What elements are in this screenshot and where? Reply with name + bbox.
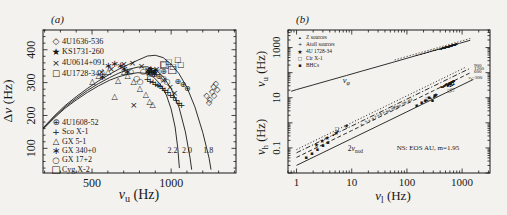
curve-label-1.8: 1.8 [203, 146, 213, 155]
x-tick-100: 100 [399, 176, 416, 188]
point-cir-x-1: □ [335, 126, 339, 131]
legend-marker-4u1636-536: ◇ [53, 36, 60, 46]
point-atoll-sources: + [372, 117, 376, 122]
point-4u-1728-34: ★ [344, 122, 349, 129]
point-upper-branch-sparse: ▪ [424, 52, 426, 55]
b-legend-b: ▴Z sources+Atoll sources★4U 1728-34□Cir … [297, 34, 334, 68]
point-cir-x-1: □ [450, 87, 454, 92]
x-tick-1000: 1000 [451, 176, 474, 188]
spin-label-300: νs=300 [468, 75, 482, 81]
legend-marker-4u0614-091: × [52, 57, 60, 68]
legend-marker-atoll-sources: + [298, 41, 302, 47]
legend-label-sco-x-1: Sco X-1 [62, 127, 88, 136]
x-tick-500: 500 [83, 176, 101, 190]
point-upper-branch-sparse: ▪ [427, 51, 429, 54]
point-bhcs: ▪ [433, 92, 436, 98]
legend-label-bhcs: BHCs [306, 62, 319, 68]
point-bhcs: ▪ [326, 139, 329, 145]
figure-two-panel-qpo-chart: 5001000100200300400◇◇◇◇◇◇◇◇★★★××××××××××… [0, 0, 507, 215]
point-bhcs: ▪ [305, 154, 308, 160]
series-upper-branch-sparse: ▪▪▪▪▪▪▪▪▪ [416, 48, 441, 58]
x-tick-10: 10 [346, 176, 358, 188]
legend-label-4u1636-536: 4U1636-536 [62, 37, 103, 46]
legend-label-gx-5-1: GX 5-1 [62, 137, 86, 146]
panel-b-chart: 11010010000.1101000▴▴▴▴▴▴▴▴+++++++++++++… [253, 0, 507, 215]
legend-label-gx-340-0: GX 340+0 [62, 146, 96, 155]
y-tick-100: 100 [24, 139, 38, 157]
legend-marker-4u-1728-34: ★ [297, 48, 302, 55]
a-legend-bottom: ⊕4U1608-52+Sco X-1△GX 5-1∗GX 340+0○GX 17… [51, 117, 98, 175]
nu-phi-label: νφ [343, 75, 351, 86]
spin-label-600: 600 [474, 69, 482, 74]
point-gx-17+2: ○ [164, 77, 171, 86]
x-tick-1: 1 [294, 176, 300, 188]
point-atoll-sources: + [379, 111, 383, 116]
point-gx-17+2: ○ [146, 69, 153, 78]
legend-marker-ks1731-260: ★ [52, 46, 61, 57]
x-tick-1000: 1000 [159, 176, 183, 190]
panel-a-chart: 5001000100200300400◇◇◇◇◇◇◇◇★★★××××××××××… [0, 0, 253, 215]
point-lower-branch-dense: ▪ [453, 79, 456, 83]
legend-label-4u1608-52: 4U1608-52 [62, 118, 98, 127]
legend-label-z-sources: Z sources [306, 34, 327, 40]
point-bhcs: ▪ [415, 102, 418, 108]
point-4u0614+091: × [130, 100, 138, 110]
legend-marker-4u1728-34: □ [52, 68, 60, 78]
y-tick-10: 10 [270, 92, 282, 104]
panel-letter-a: (a) [51, 13, 64, 26]
point-bhcs: ▪ [310, 150, 313, 156]
point-4u1728-34: □ [177, 60, 184, 69]
legend-marker-cir-x-1: □ [298, 56, 302, 61]
legend-label-cyg-x-2: Cyg X-2 [62, 165, 90, 174]
curve-label-2.0: 2.0 [182, 146, 192, 155]
x-axis-label: νu (Hz) [119, 187, 160, 204]
point-gx-17+2: ○ [137, 77, 144, 86]
legend-label-gx-17-2: GX 17+2 [62, 155, 92, 164]
x-axis-label: νl (Hz) [375, 188, 410, 205]
a-legend-top: ◇4U1636-536★KS1731-260×4U0614+091□4U1728… [52, 36, 106, 78]
point-atoll-sources: + [403, 100, 407, 105]
legend-label-ks1731-260: KS1731-260 [62, 47, 104, 56]
legend-label-atoll-sources: Atoll sources [306, 41, 335, 47]
point-bhcs: ▪ [316, 146, 319, 152]
legend-marker-bhcs: ▪ [298, 62, 301, 68]
y-tick-200: 200 [24, 106, 38, 124]
y-axis-label: νu (Hz) [254, 51, 270, 87]
point-atoll-sources: + [386, 109, 390, 114]
point-sco-x-1: + [178, 99, 186, 110]
point-upper-branch-sparse: ▪ [416, 54, 418, 57]
point-bhcs: ▪ [321, 142, 324, 148]
legend-marker-cyg-x-2: □ [51, 164, 60, 175]
point-4u1636-536: ◇ [211, 91, 218, 100]
legend-label-4u-1728-34: 4U 1728-34 [306, 48, 332, 54]
point-gx-5-1: △ [111, 92, 118, 101]
panel-b: 11010010000.1101000▴▴▴▴▴▴▴▴+++++++++++++… [253, 0, 507, 215]
y-tick-1000: 1000 [270, 36, 282, 59]
panel-a: 5001000100200300400◇◇◇◇◇◇◇◇★★★××××××××××… [0, 0, 253, 215]
point-cir-x-1: □ [393, 105, 397, 110]
point-atoll-sources: + [407, 98, 411, 103]
y-axis-label-2: νh (Hz) [254, 119, 270, 155]
panel-letter-b: (b) [296, 13, 309, 26]
y-tick-0.1: 0.1 [270, 141, 282, 155]
eos-label: NS: EOS AU, m=1.95 [397, 144, 460, 152]
two-nu-nod-label: 2νnod [348, 144, 363, 154]
y-axis-label: Δν (Hz) [0, 80, 15, 123]
series-upper-branch-dense: ▪▪▪▪▪▪▪▪▪▪▪▪▪▪▪▪▪▪▪▪▪▪▪▪▪▪▪▪▪▪ [440, 42, 458, 51]
legend-label-4u0614-091: 4U0614+091 [62, 58, 105, 67]
legend-label-4u1728-34: 4U1728-34 [62, 69, 99, 78]
y-tick-400: 400 [24, 41, 38, 59]
point-4u1608-52: ⊕ [184, 84, 191, 93]
y-tick-300: 300 [24, 74, 38, 92]
legend-label-cir-x-1: Cir X-1 [306, 55, 323, 61]
legend-marker-z-sources: ▴ [299, 35, 302, 40]
point-upper-branch-sparse: ▪ [420, 53, 422, 56]
point-gx-5-1: △ [115, 76, 122, 85]
point-gx-5-1: △ [149, 100, 156, 109]
series-4u1636-536: ◇◇◇◇◇◇◇◇ [204, 79, 222, 106]
curve-label-2.2: 2.2 [167, 146, 177, 155]
point-cyg-x-2: □ [167, 63, 177, 75]
